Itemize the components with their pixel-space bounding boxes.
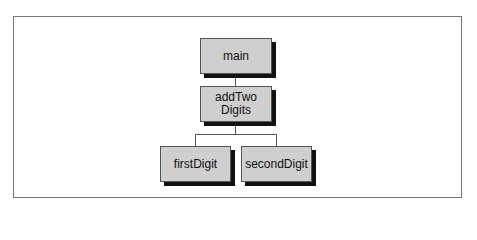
node-firstdigit-label: firstDigit [174, 158, 217, 171]
node-firstdigit: firstDigit [160, 146, 231, 182]
edge-main-to-addtwodigits [235, 74, 236, 86]
edge-branch-horizontal [195, 134, 277, 135]
edge-addtwodigits-stem [235, 122, 236, 134]
node-main: main [200, 38, 272, 74]
node-seconddigit-label: secondDigit [245, 158, 308, 171]
node-addtwodigits: addTwo Digits [200, 86, 272, 122]
node-addtwodigits-label-line2: Digits [221, 104, 251, 117]
edge-to-seconddigit [276, 134, 277, 146]
node-main-label: main [223, 50, 249, 63]
edge-to-firstdigit [195, 134, 196, 146]
node-seconddigit: secondDigit [241, 146, 312, 182]
